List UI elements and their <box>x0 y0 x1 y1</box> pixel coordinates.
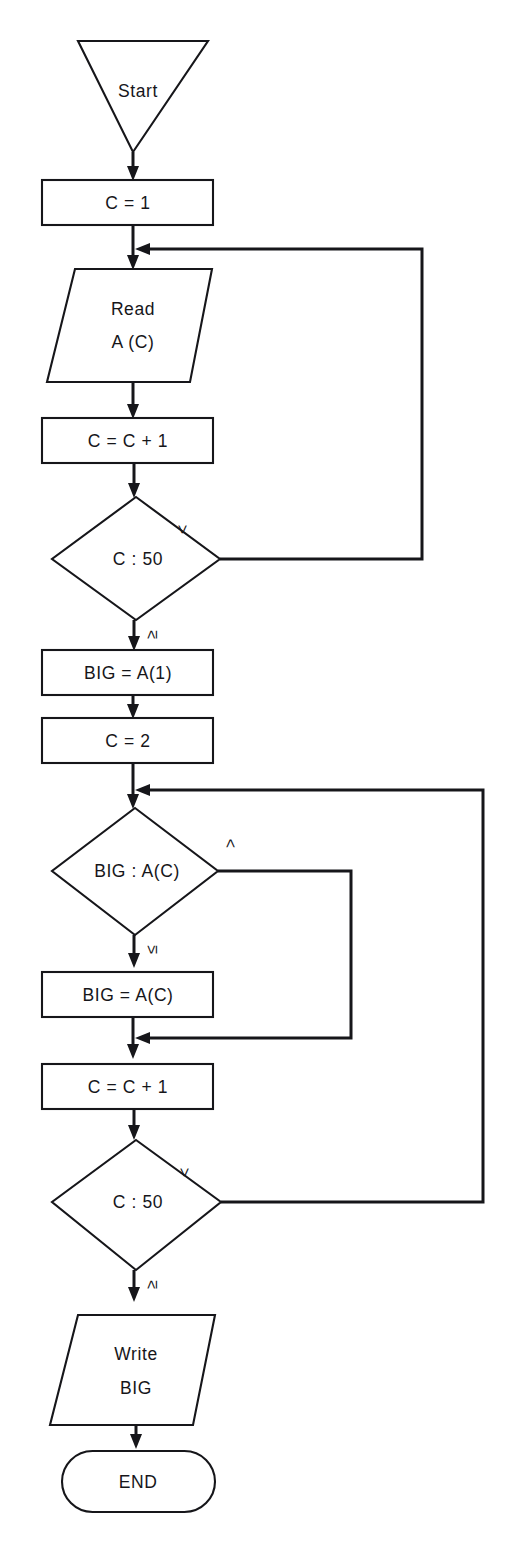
node-big-assign[interactable]: BIG = A(C) <box>42 972 213 1017</box>
node-write-label-line1: Write <box>114 1344 158 1364</box>
node-write-label-line2: BIG <box>120 1378 152 1398</box>
edge-read-to-inc <box>127 382 139 419</box>
edge-write-to-end <box>130 1425 142 1449</box>
node-read-label-line1: Read <box>111 299 155 319</box>
node-decide-loop-label: C : 50 <box>113 1192 163 1212</box>
node-decide-loop[interactable]: C : 50 <box>52 1140 221 1270</box>
branch-label-big-le: ≤ <box>143 944 160 953</box>
branch-label-loop-less: < <box>176 1167 193 1177</box>
branch-label-read-less: < <box>174 524 191 534</box>
edge-decidebig-to-bigassign <box>128 935 140 968</box>
node-start[interactable]: Start <box>78 41 208 152</box>
node-set-c-2[interactable]: C = 2 <box>42 718 213 763</box>
edge-decide-to-biginit <box>128 620 140 651</box>
node-inc-c-1-label: C = C + 1 <box>88 431 168 451</box>
flowchart-svg: Start C = 1 Read A (C) C = C + 1 C : 50 … <box>0 0 516 1557</box>
edge-start-to-init <box>127 152 139 181</box>
node-decide-read[interactable]: C : 50 <box>52 497 220 620</box>
edge-inc-to-decide <box>128 463 140 498</box>
node-decide-big-label: BIG : A(C) <box>94 861 180 881</box>
node-set-c-2-label: C = 2 <box>105 731 150 751</box>
node-write[interactable]: Write BIG <box>50 1315 215 1425</box>
flowchart-canvas: Start C = 1 Read A (C) C = C + 1 C : 50 … <box>0 0 516 1557</box>
edge-setc2-to-decidebig <box>127 763 139 809</box>
branch-label-big-greater: > <box>222 838 239 848</box>
node-read-label-line2: A (C) <box>112 332 155 352</box>
node-start-label: Start <box>118 81 158 101</box>
node-end-label: END <box>119 1472 158 1492</box>
node-inc-c-2[interactable]: C = C + 1 <box>42 1064 213 1109</box>
node-big-init-label: BIG = A(1) <box>84 663 172 683</box>
node-read[interactable]: Read A (C) <box>47 269 212 382</box>
node-decide-read-label: C : 50 <box>113 549 163 569</box>
edge-decideloop-to-write <box>128 1270 140 1302</box>
node-init-c[interactable]: C = 1 <box>42 180 213 225</box>
edge-biginit-to-setc2 <box>127 695 139 719</box>
node-inc-c-1[interactable]: C = C + 1 <box>42 418 213 463</box>
node-big-init[interactable]: BIG = A(1) <box>42 650 213 695</box>
branch-label-loop-ge: ≥ <box>143 1279 160 1288</box>
node-big-assign-label: BIG = A(C) <box>82 985 173 1005</box>
edge-inc2-to-decideloop <box>128 1109 140 1140</box>
node-decide-big[interactable]: BIG : A(C) <box>52 808 218 935</box>
edge-init-to-read <box>127 225 139 270</box>
branch-label-read-ge: ≥ <box>143 629 160 638</box>
node-end[interactable]: END <box>62 1451 215 1512</box>
node-inc-c-2-label: C = C + 1 <box>88 1077 168 1097</box>
node-init-c-label: C = 1 <box>105 193 150 213</box>
